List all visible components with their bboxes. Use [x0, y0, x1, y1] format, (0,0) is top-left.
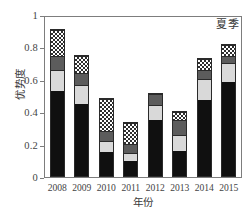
bar-segment-black: [124, 161, 137, 176]
bar-segment-light-gray: [173, 135, 186, 151]
x-axis-tick-label: 2009: [71, 181, 93, 197]
bar-series-container: [45, 17, 241, 177]
stacked-bar: [172, 111, 187, 177]
y-axis-tick-label: 0.4: [24, 106, 38, 119]
bar-column: [95, 17, 117, 177]
bar-segment-black: [173, 151, 186, 176]
bar-column: [193, 17, 215, 177]
y-axis-tick-label: 0: [33, 171, 38, 184]
bar-column: [71, 17, 93, 177]
stacked-bar: [123, 122, 138, 177]
y-axis-title: 优势度: [14, 56, 26, 112]
stacked-bar: [148, 93, 163, 177]
bar-segment-black: [51, 91, 64, 176]
y-axis-tick-label: 1: [33, 9, 38, 22]
x-axis-tick-label: 2015: [218, 181, 240, 197]
bar-column: [218, 17, 240, 177]
x-axis-tick-label: 2014: [193, 181, 215, 197]
bar-segment-light-gray: [75, 85, 88, 104]
bar-segment-black: [75, 104, 88, 176]
bar-segment-dark-gray: [222, 56, 235, 63]
y-axis-tick-mark: [40, 178, 44, 179]
bar-column: [46, 17, 68, 177]
y-axis-tick-mark: [40, 81, 44, 82]
bar-segment-checkered: [100, 99, 113, 130]
season-annotation: 夏季: [216, 18, 239, 32]
bar-segment-black: [198, 100, 211, 176]
y-axis-tick-label: 0.2: [24, 139, 38, 152]
y-axis-tick-mark: [40, 113, 44, 114]
bar-segment-checkered: [173, 112, 186, 120]
bar-segment-dark-gray: [198, 70, 211, 79]
bar-column: [144, 17, 166, 177]
bar-segment-light-gray: [149, 105, 162, 120]
bar-segment-black: [222, 82, 235, 176]
bar-segment-dark-gray: [75, 73, 88, 84]
stacked-bar: [99, 98, 114, 177]
bar-segment-light-gray: [198, 79, 211, 100]
bar-column: [120, 17, 142, 177]
bar-segment-checkered: [75, 56, 88, 73]
bar-segment-checkered: [124, 123, 137, 143]
x-axis-tick-label: 2008: [46, 181, 68, 197]
bar-column: [169, 17, 191, 177]
bar-segment-dark-gray: [173, 120, 186, 135]
bar-segment-light-gray: [100, 141, 113, 152]
x-axis-tick-label: 2013: [169, 181, 191, 197]
bar-segment-light-gray: [124, 153, 137, 161]
y-axis-tick-label: 0.8: [24, 41, 38, 54]
bar-segment-light-gray: [222, 63, 235, 82]
bar-segment-checkered: [222, 45, 235, 56]
bar-segment-checkered: [51, 30, 64, 56]
bar-segment-black: [100, 152, 113, 176]
bar-segment-light-gray: [51, 70, 64, 91]
x-axis-tick-label: 2010: [95, 181, 117, 197]
bar-segment-dark-gray: [100, 131, 113, 141]
x-axis-tick-label: 2012: [144, 181, 166, 197]
stacked-bar-chart: 1 0.8 0.6 0.4 0.2 0 优势度 2008200920102011…: [0, 0, 247, 214]
x-axis-title: 年份: [45, 196, 241, 209]
stacked-bar: [74, 55, 89, 177]
y-axis-tick-mark: [40, 146, 44, 147]
stacked-bar: [197, 58, 212, 177]
bar-segment-dark-gray: [51, 56, 64, 71]
x-axis: 20082009201020112012201320142015: [45, 181, 241, 197]
bar-segment-dark-gray: [124, 144, 137, 153]
bar-segment-black: [149, 120, 162, 176]
y-axis-tick-mark: [40, 16, 44, 17]
bar-segment-dark-gray: [149, 94, 162, 105]
stacked-bar: [50, 29, 65, 177]
y-axis-tick-label: 0.6: [24, 74, 38, 87]
stacked-bar: [221, 44, 236, 177]
x-axis-tick-label: 2011: [120, 181, 142, 197]
bar-segment-checkered: [198, 59, 211, 70]
y-axis-tick-mark: [40, 48, 44, 49]
